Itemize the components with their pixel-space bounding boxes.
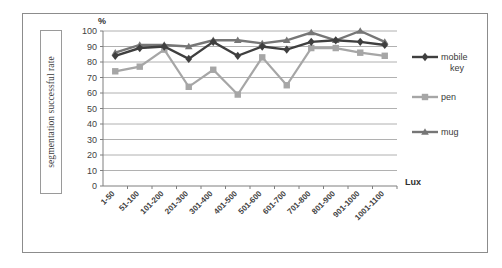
legend-label: mug: [441, 127, 459, 137]
x-unit-label: Lux: [405, 177, 421, 187]
legend: mobilekeypenmug: [412, 52, 468, 137]
data-point-marker: [307, 29, 315, 35]
legend-item-mobile-key[interactable]: mobilekey: [412, 52, 468, 73]
x-tick-label: 101-200: [139, 189, 167, 217]
y-axis-ticks-group: 0102030405060708090100: [82, 26, 103, 191]
data-point-marker: [356, 27, 364, 33]
data-point-marker: [112, 68, 118, 74]
data-point-marker: [259, 54, 265, 60]
y-tick-label: 60: [87, 88, 97, 98]
x-tick-label: 1-50: [99, 189, 117, 207]
data-point-marker: [284, 82, 290, 88]
data-point-marker: [308, 38, 315, 46]
data-point-marker: [210, 67, 216, 73]
x-tick-label: 501-600: [237, 189, 265, 217]
y-tick-label: 50: [87, 104, 97, 114]
data-point-marker: [382, 53, 388, 59]
data-point-marker: [357, 38, 364, 46]
legend-item-mug[interactable]: mug: [412, 127, 459, 137]
legend-label-line2: key: [450, 63, 465, 73]
x-tick-label: 601-700: [261, 189, 289, 217]
x-tick-label: 301-400: [188, 189, 216, 217]
y-tick-label: 30: [87, 135, 97, 145]
data-point-marker: [137, 63, 143, 69]
y-tick-label: 70: [87, 73, 97, 83]
x-tick-label: 401-500: [212, 189, 240, 217]
y-tick-label: 40: [87, 119, 97, 129]
data-point-marker: [422, 53, 429, 61]
y-tick-label: 0: [92, 181, 97, 191]
y-tick-label: 10: [87, 166, 97, 176]
y-tick-label: 90: [87, 42, 97, 52]
data-point-marker: [357, 50, 363, 56]
x-tick-label: 701-800: [286, 189, 314, 217]
line-chart-plot: 0102030405060708090100 1-5051-100101-200…: [0, 0, 502, 268]
data-point-marker: [422, 94, 428, 100]
chart-screenshot: segmentation successful rate 01020304050…: [0, 0, 502, 268]
legend-item-pen[interactable]: pen: [412, 92, 456, 102]
x-axis-labels-group: 1-5051-100101-200201-300301-400401-50050…: [99, 186, 397, 222]
unit-labels-group: %Lux: [98, 16, 421, 187]
data-point-marker: [333, 45, 339, 51]
data-series-group: [111, 27, 388, 97]
series-pen: [112, 45, 388, 98]
y-tick-label: 100: [82, 26, 97, 36]
y-unit-label: %: [98, 16, 106, 26]
legend-label: mobile: [441, 52, 468, 62]
series-line: [115, 48, 385, 95]
y-tick-label: 80: [87, 57, 97, 67]
data-point-marker: [235, 91, 241, 97]
x-tick-label: 201-300: [163, 189, 191, 217]
data-point-marker: [186, 84, 192, 90]
legend-label: pen: [441, 92, 456, 102]
data-point-marker: [332, 36, 339, 44]
data-point-marker: [234, 52, 241, 60]
y-tick-label: 20: [87, 150, 97, 160]
